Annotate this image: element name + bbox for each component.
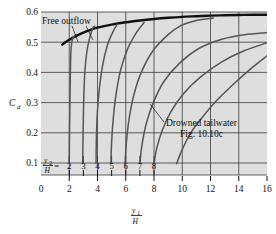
family-tick-label: 7 <box>138 161 143 171</box>
x-tick-label: 14 <box>234 184 244 194</box>
family-tick-label: 8 <box>152 161 157 171</box>
free-outflow-label: Free outflow <box>42 16 91 26</box>
y-axis-title: C d <box>9 98 21 110</box>
figure-reference-label: Fig. 10.10c <box>180 129 223 139</box>
family-label-equals: = <box>54 161 59 171</box>
x-tick-label: 0 <box>39 184 44 194</box>
y-axis-tick-labels: 0.10.20.30.40.50.6 <box>26 7 38 168</box>
y-tick-label: 0.4 <box>26 68 38 78</box>
y-tick-label: 0.5 <box>26 38 38 48</box>
y-tick-label: 0.6 <box>26 7 38 17</box>
x-axis-numerator: y <box>131 206 136 215</box>
x-tick-label: 4 <box>95 184 100 194</box>
x-tick-label: 2 <box>67 184 72 194</box>
family-tick-label: 5 <box>109 161 114 171</box>
y-tick-label: 0.1 <box>26 158 38 168</box>
y-tick-label: 0.2 <box>26 128 38 138</box>
x-tick-label: 10 <box>178 184 188 194</box>
family-label-numerator: y <box>43 156 48 165</box>
family-label-numerator-subscript: 2 <box>49 159 52 166</box>
family-tick-label: 3 <box>81 161 86 171</box>
drowned-tailwater-label: Drowned tailwater <box>166 118 238 128</box>
y-axis-symbol-subscript: d <box>17 103 21 110</box>
x-axis-denominator: H <box>132 217 139 226</box>
x-tick-label: 6 <box>123 184 128 194</box>
family-tick-label: 6 <box>124 161 129 171</box>
family-tick-label: 4 <box>95 161 100 171</box>
x-tick-label: 12 <box>206 184 216 194</box>
x-axis-tick-labels: 0246810121416 <box>39 184 272 194</box>
x-axis-numerator-subscript: 1 <box>137 209 140 216</box>
x-axis-tick-marks <box>69 176 267 181</box>
family-label-denominator: H <box>44 166 51 175</box>
x-tick-label: 8 <box>152 184 157 194</box>
family-tick-label: 2 <box>67 161 72 171</box>
x-axis-title: y 1 H <box>131 206 142 226</box>
y-axis-symbol: C <box>9 98 16 108</box>
chart-canvas: 0.10.20.30.40.50.6 C d 2345678 024681012… <box>0 0 276 234</box>
x-tick-label: 16 <box>262 184 272 194</box>
figure-container: 0.10.20.30.40.50.6 C d 2345678 024681012… <box>0 0 276 234</box>
y-tick-label: 0.3 <box>26 98 38 108</box>
